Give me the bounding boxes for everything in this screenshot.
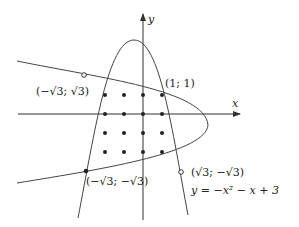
label-sqrt3-neg-sqrt3: (√3; −√3) [191,166,244,179]
vertical-parabola [78,40,188,218]
diagram-canvas: x y (−√3; √3) (1; 1) (−√3; −√3) (√3; −√3… [0,0,299,227]
label-1-1: (1; 1) [165,77,195,90]
integer-grid-points [103,93,164,154]
y-axis-label: y [147,13,155,26]
parabola-equation: y = −x² − x + 3 [190,184,279,197]
filled-point-neg-sqrt3-neg-sqrt3 [84,169,89,174]
label-neg-sqrt3-sqrt3: (−√3; √3) [36,85,89,98]
open-point-neg-sqrt3-sqrt3 [82,73,87,78]
label-neg-sqrt3-neg-sqrt3: (−√3; −√3) [86,175,148,188]
open-point-sqrt3-neg-sqrt3 [179,170,184,175]
x-axis-label: x [232,97,239,110]
